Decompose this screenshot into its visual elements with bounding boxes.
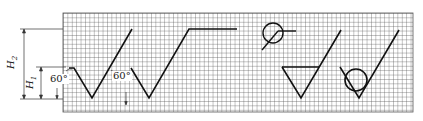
dimension-label-h2: H2: [6, 56, 19, 69]
roughness-symbol-figure: [0, 0, 423, 121]
angle-label-right: 60°: [112, 71, 132, 81]
grid-paper: [63, 13, 413, 112]
angle-label-left: 60°: [49, 74, 69, 84]
dimension-label-h1: H1: [25, 76, 38, 89]
